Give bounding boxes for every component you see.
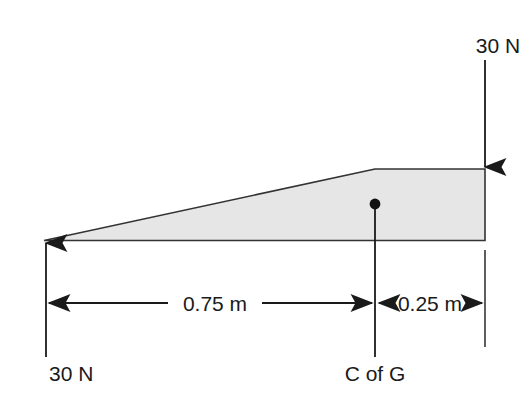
dimension-label-075: 0.75 m: [183, 292, 247, 315]
left-force-label: 30 N: [49, 362, 93, 385]
centre-of-gravity-dot: [370, 199, 381, 210]
centre-of-gravity-label: C of G: [345, 362, 406, 385]
right-force-label: 30 N: [476, 34, 520, 57]
beam-body: [44, 169, 485, 241]
diagram-canvas: 30 N 30 N 0.75 m 0.25 m C of G: [0, 0, 531, 405]
free-body-diagram: 30 N 30 N 0.75 m 0.25 m C of G: [0, 0, 531, 405]
dimension-label-025: 0.25 m: [398, 292, 462, 315]
